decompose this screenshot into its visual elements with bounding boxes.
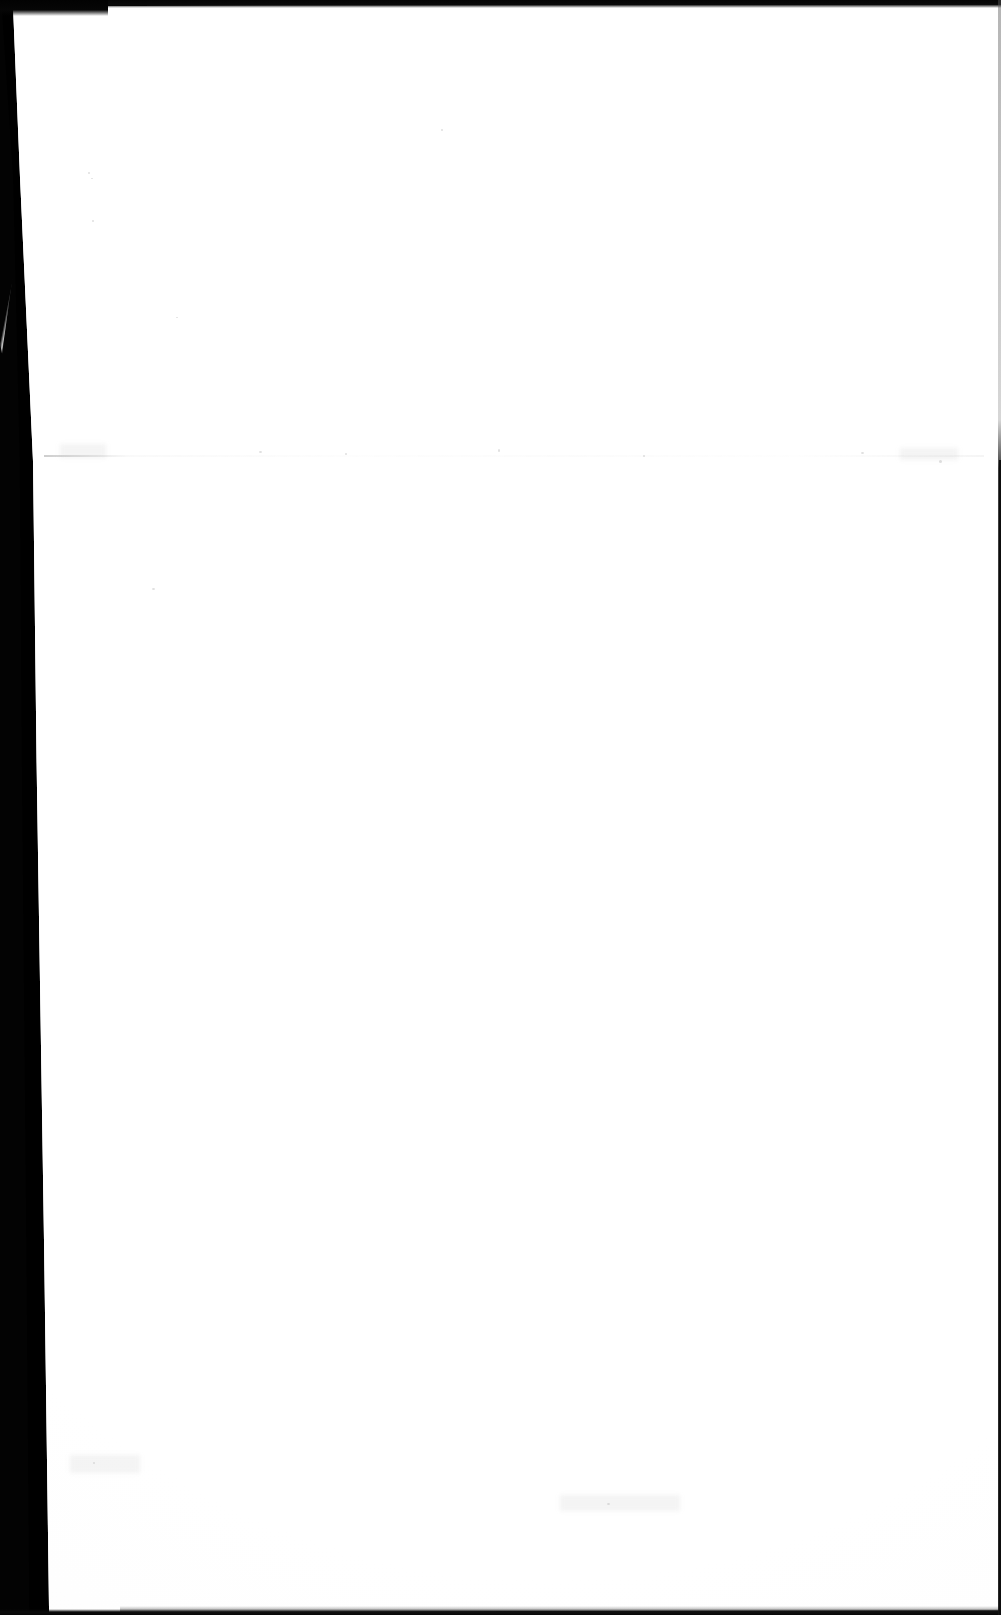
paper-tone-overlay (0, 0, 1001, 1615)
scan-edge-bottom-taper (120, 1606, 1001, 1615)
scan-edge-top-left-tab (0, 0, 108, 16)
scanned-page (0, 0, 1001, 1615)
paper-sheet (0, 0, 1001, 1615)
scan-edge-top (0, 0, 1001, 8)
